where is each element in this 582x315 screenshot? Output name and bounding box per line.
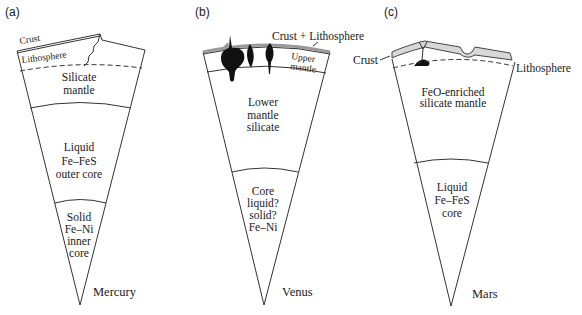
mercury-mantle-line2: mantle (63, 84, 94, 96)
venus-large-plume-icon (221, 35, 244, 82)
mercury-inner-core-line3: inner (67, 235, 91, 247)
mars-mantle-line2: silicate mantle (420, 97, 487, 109)
mercury-core-mantle-boundary (30, 103, 131, 109)
mercury-outer-core-line2: Fe–FeS (61, 155, 96, 167)
venus-core-line4: Fe–Ni (249, 221, 278, 233)
mercury-inner-core-line1: Solid (67, 211, 92, 223)
mercury-inner-core-line4: core (69, 247, 89, 259)
mars-magma-chamber-icon (414, 60, 430, 66)
mars-crust-layer (392, 41, 512, 60)
mars-core-line3: core (442, 207, 462, 219)
mars-crust-label: Crust (353, 54, 379, 66)
panel-label-a: (a) (5, 5, 20, 19)
panel-mercury: (a) Crust Lithosphere Silicate mantle Li… (5, 5, 145, 305)
venus-wedge-sides (203, 52, 330, 305)
panel-mars: (c) Crust Lithosphere FeO-enriched silic… (353, 5, 571, 306)
mars-core-line2: Fe–FeS (434, 194, 469, 206)
mercury-outer-core-line1: Liquid (64, 141, 95, 154)
venus-core-line3: solid? (249, 209, 276, 221)
planet-interiors-diagram: (a) Crust Lithosphere Silicate mantle Li… (0, 0, 582, 315)
panel-label-c: (c) (384, 5, 398, 19)
venus-crust-leader-line (313, 42, 318, 46)
mars-lithosphere-boundary (393, 59, 513, 68)
venus-planet-label: Venus (282, 285, 313, 299)
venus-core-line1: Core (252, 185, 274, 197)
mars-core-line1: Liquid (437, 181, 468, 194)
mars-planet-label: Mars (472, 287, 498, 301)
mercury-outer-core-line3: outer core (56, 168, 102, 180)
panel-label-b: (b) (195, 5, 210, 19)
venus-plume-3-icon (266, 43, 274, 74)
panel-venus: (b) Crust + Lithosphere Upper mantle Low… (195, 5, 364, 305)
mercury-mantle-line1: Silicate (62, 71, 97, 83)
mercury-crust-label: Crust (19, 33, 41, 46)
mars-core-mantle-boundary (414, 159, 488, 163)
mercury-planet-label: Mercury (93, 285, 137, 299)
mercury-surface-right (102, 40, 145, 50)
mars-crust-leader-line (380, 56, 390, 60)
mars-lithosphere-label: Lithosphere (516, 62, 571, 75)
venus-core-mantle-boundary (232, 168, 298, 172)
venus-lower-mantle-line2: mantle (247, 109, 278, 121)
mercury-inner-core-boundary (55, 200, 106, 204)
mercury-lithosphere-label: Lithosphere (21, 50, 67, 65)
mercury-inner-core-line2: Fe–Ni (65, 223, 94, 235)
venus-lower-mantle-line1: Lower (248, 96, 278, 108)
venus-crust-lithosphere-label: Crust + Lithosphere (272, 30, 364, 43)
venus-lower-mantle-line3: silicate (247, 121, 280, 133)
